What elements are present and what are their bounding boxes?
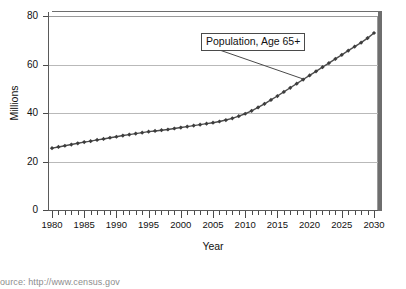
y-axis-title: Millions: [8, 73, 20, 133]
data-point-marker: [185, 124, 189, 128]
data-point-marker: [217, 119, 221, 123]
x-axis-tick-minor: [226, 211, 227, 215]
x-axis-tick-minor: [361, 211, 362, 215]
x-axis-tick-label: 2015: [267, 220, 288, 230]
data-point-marker: [89, 139, 93, 143]
x-axis-tick-label: 1990: [106, 220, 127, 230]
x-axis-tick-minor: [168, 211, 169, 215]
x-axis-tick-minor: [239, 211, 240, 215]
data-point-marker: [192, 124, 196, 128]
data-point-marker: [198, 123, 202, 127]
y-axis-tick-label: 0: [32, 205, 38, 215]
x-axis-tick-minor: [284, 211, 285, 215]
data-point-marker: [69, 142, 73, 146]
x-axis-tick-minor: [187, 211, 188, 215]
x-axis-tick-major: [342, 211, 343, 218]
x-axis-tick-minor: [271, 211, 272, 215]
data-point-marker: [147, 130, 151, 134]
x-axis-tick-minor: [258, 211, 259, 215]
x-axis-tick-minor: [78, 211, 79, 215]
x-axis-tick-minor: [142, 211, 143, 215]
x-axis-tick-major: [52, 211, 53, 218]
x-axis-tick-label: 1980: [41, 220, 62, 230]
x-axis-tick-minor: [65, 211, 66, 215]
data-point-marker: [211, 121, 215, 125]
data-point-marker: [140, 131, 144, 135]
x-axis-tick-label: 2030: [363, 220, 384, 230]
x-axis-tick-minor: [265, 211, 266, 215]
data-point-marker: [56, 145, 60, 149]
data-point-marker: [101, 137, 105, 141]
data-point-marker: [50, 146, 54, 150]
x-axis-title: Year: [48, 240, 378, 252]
x-axis-tick-major: [84, 211, 85, 218]
x-axis-tick-minor: [97, 211, 98, 215]
x-axis-tick-major: [277, 211, 278, 218]
data-point-marker: [237, 114, 241, 118]
data-point-marker: [204, 122, 208, 126]
x-axis-tick-label: 1985: [74, 220, 95, 230]
x-axis-tick-minor: [335, 211, 336, 215]
chart-figure: 020406080 198019851990199520002005201020…: [0, 0, 406, 289]
x-axis-tick-minor: [316, 211, 317, 215]
x-axis-tick-minor: [297, 211, 298, 215]
x-axis-tick-minor: [219, 211, 220, 215]
x-axis-tick-major: [149, 211, 150, 218]
x-axis-tick-minor: [129, 211, 130, 215]
x-axis-tick-minor: [322, 211, 323, 215]
x-axis-tick-minor: [194, 211, 195, 215]
x-axis-tick-minor: [174, 211, 175, 215]
y-axis-tick-label: 60: [27, 60, 38, 70]
data-point-marker: [114, 135, 118, 139]
source-note: ource: http://www.census.gov: [0, 277, 120, 288]
x-axis-tick-minor: [110, 211, 111, 215]
x-axis-tick-minor: [355, 211, 356, 215]
x-axis-tick-minor: [348, 211, 349, 215]
y-axis-tick-label: 80: [27, 11, 38, 21]
x-axis-tick-major: [374, 211, 375, 218]
data-point-marker: [172, 126, 176, 130]
annotation-label: Population, Age 65+: [206, 35, 300, 47]
data-point-marker: [108, 136, 112, 140]
data-point-marker: [179, 125, 183, 129]
x-axis-tick-minor: [252, 211, 253, 215]
x-axis-tick-minor: [303, 211, 304, 215]
annotation-callout: Population, Age 65+: [201, 33, 305, 51]
annotation-leader-line: [200, 44, 340, 104]
x-axis-tick-minor: [123, 211, 124, 215]
x-axis-tick-label: 1995: [138, 220, 159, 230]
x-axis-tick-minor: [155, 211, 156, 215]
x-axis-tick-major: [181, 211, 182, 218]
x-axis-tick-minor: [161, 211, 162, 215]
data-point-marker: [82, 140, 86, 144]
data-point-marker: [224, 118, 228, 122]
x-axis-tick-minor: [368, 211, 369, 215]
x-axis-tick-major: [245, 211, 246, 218]
x-axis-tick-label: 2025: [331, 220, 352, 230]
data-point-marker: [153, 129, 157, 133]
data-point-marker: [243, 112, 247, 116]
data-point-marker: [127, 132, 131, 136]
x-axis-tick-label: 2005: [202, 220, 223, 230]
x-axis-tick-minor: [200, 211, 201, 215]
x-axis-tick-label: 2020: [299, 220, 320, 230]
x-axis-tick-minor: [329, 211, 330, 215]
data-point-marker: [159, 128, 163, 132]
data-point-marker: [76, 141, 80, 145]
x-axis-tick-label: 2010: [235, 220, 256, 230]
x-axis-tick-major: [116, 211, 117, 218]
data-point-marker: [95, 138, 99, 142]
x-axis-tick-minor: [71, 211, 72, 215]
data-point-marker: [134, 132, 138, 136]
x-axis-tick-major: [310, 211, 311, 218]
x-axis-tick-minor: [232, 211, 233, 215]
x-axis-tick-minor: [91, 211, 92, 215]
x-axis-tick-label: 2000: [170, 220, 191, 230]
data-point-marker: [230, 116, 234, 120]
y-axis-tick-label: 40: [27, 108, 38, 118]
x-axis-tick-minor: [290, 211, 291, 215]
data-point-marker: [166, 127, 170, 131]
x-axis-tick-minor: [58, 211, 59, 215]
x-axis-tick-minor: [207, 211, 208, 215]
data-point-marker: [63, 144, 67, 148]
